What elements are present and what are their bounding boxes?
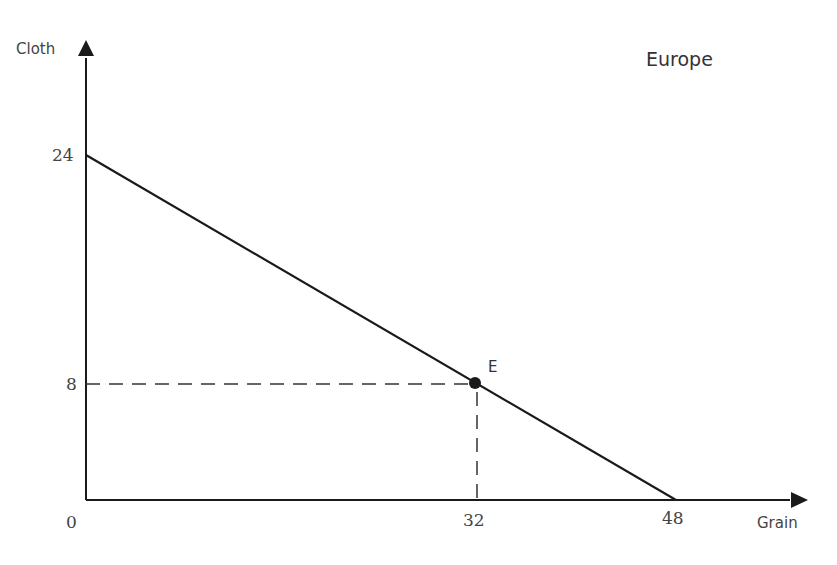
point-e-marker: [469, 377, 481, 389]
x-tick-32: 32: [463, 510, 485, 530]
y-tick-8: 8: [66, 374, 77, 394]
y-axis-label: Cloth: [16, 40, 55, 58]
x-axis-label: Grain: [757, 514, 798, 532]
frontier-line: [86, 155, 676, 500]
origin-label: 0: [66, 512, 77, 532]
y-axis-arrow-icon: [78, 40, 94, 56]
chart-title: Europe: [646, 48, 713, 70]
point-e-label: E: [488, 358, 497, 376]
y-tick-24: 24: [52, 145, 74, 165]
x-tick-48: 48: [662, 508, 684, 528]
x-axis-arrow-icon: [791, 492, 808, 508]
chart-canvas: [0, 0, 837, 565]
